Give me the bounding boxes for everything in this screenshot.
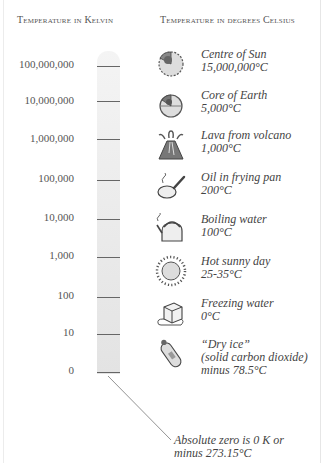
leader-line bbox=[0, 0, 324, 463]
absolute-zero-annotation: Absolute zero is 0 K or minus 273.15°C bbox=[174, 434, 284, 460]
annotation-line2: minus 273.15°C bbox=[174, 447, 284, 460]
